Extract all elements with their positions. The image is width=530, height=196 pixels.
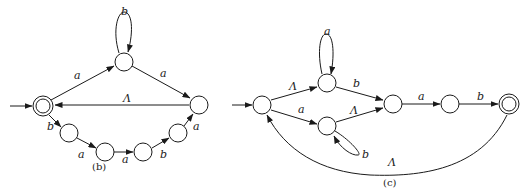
label-c-start-top: Λ xyxy=(288,80,297,93)
label-c-start-bottom: a xyxy=(298,103,305,116)
caption-c: (c) xyxy=(383,177,397,188)
state-b-c4 xyxy=(169,124,187,142)
edge-b-c3-c4 xyxy=(152,138,169,148)
state-b-right xyxy=(190,96,208,114)
label-c-next-final: b xyxy=(477,90,484,103)
label-b-loop-top: b xyxy=(121,5,128,18)
state-b-top xyxy=(115,53,133,71)
label-b-c1-c2: a xyxy=(78,148,85,161)
label-b-start-c1: b xyxy=(47,120,54,133)
state-b-c3 xyxy=(134,143,152,161)
label-b-c4-right: a xyxy=(193,120,200,133)
label-b-c2-c3: a xyxy=(122,153,129,166)
state-b-c2 xyxy=(96,143,114,161)
state-b-start-accept-inner xyxy=(36,99,50,113)
state-c-start xyxy=(253,96,271,114)
edge-b-start-top xyxy=(51,66,114,100)
state-c-mid xyxy=(384,95,402,113)
edge-b-c1-c2 xyxy=(77,138,96,148)
label-c-final-start: Λ xyxy=(387,156,396,169)
loop-c-bottom xyxy=(334,131,359,155)
label-c-bottom-mid: Λ xyxy=(349,104,358,117)
edge-c-final-start xyxy=(267,115,507,175)
label-b-start-top: a xyxy=(74,69,81,82)
state-b-c1 xyxy=(60,124,78,142)
state-c-next xyxy=(441,95,459,113)
diagram-b: b a a Λ b a a b a (b) xyxy=(10,5,208,172)
state-c-bottom xyxy=(318,117,336,135)
edge-c-start-bottom xyxy=(271,110,317,124)
label-c-loop-top: a xyxy=(324,25,331,38)
edge-c-bottom-mid xyxy=(336,108,383,122)
diagram-c: Λ a a b b Λ a b Λ (c) xyxy=(232,25,519,188)
label-c-top-mid: b xyxy=(353,77,360,90)
label-b-top-right: a xyxy=(160,67,167,80)
label-b-right-start: Λ xyxy=(122,92,131,105)
state-c-top xyxy=(318,74,336,92)
label-c-mid-next: a xyxy=(418,90,425,103)
loop-c-top xyxy=(319,34,333,74)
label-c-loop-bottom: b xyxy=(362,148,369,161)
state-c-final-accept-inner xyxy=(502,97,516,111)
edge-b-c4-right xyxy=(184,114,193,126)
caption-b: (b) xyxy=(92,161,106,172)
loop-b-top xyxy=(116,12,132,53)
automata-figure: b a a Λ b a a b a (b) Λ a a b b Λ a xyxy=(0,0,530,196)
label-b-c3-c4: b xyxy=(160,148,167,161)
